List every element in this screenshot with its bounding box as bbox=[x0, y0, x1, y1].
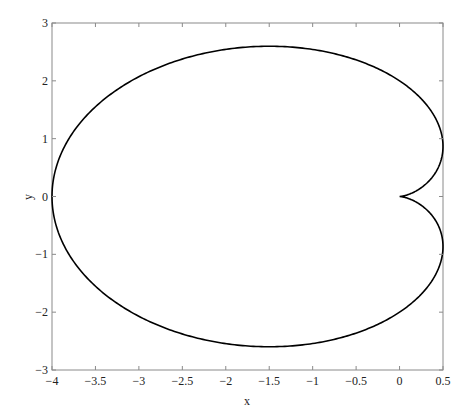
y-tick-label: −3 bbox=[35, 363, 48, 377]
x-tick-label: 0 bbox=[397, 374, 403, 388]
y-tick-label: 0 bbox=[42, 190, 48, 204]
x-tick-label: −2.5 bbox=[171, 374, 193, 388]
chart-canvas: −4−3.5−3−2.5−2−1.5−1−0.500.5−3−2−10123 x… bbox=[0, 0, 474, 410]
x-axis-label: x bbox=[244, 394, 250, 408]
x-tick-label: −2 bbox=[219, 374, 232, 388]
y-tick-label: −1 bbox=[35, 247, 48, 261]
y-tick-label: −2 bbox=[35, 305, 48, 319]
plot-area bbox=[52, 23, 443, 370]
x-tick-label: −0.5 bbox=[345, 374, 367, 388]
x-tick-label: 0.5 bbox=[436, 374, 451, 388]
y-tick-label: 3 bbox=[42, 16, 48, 30]
x-tick-label: −1.5 bbox=[258, 374, 280, 388]
x-tick-label: −3.5 bbox=[85, 374, 107, 388]
x-tick-label: −3 bbox=[132, 374, 145, 388]
x-tick-label: −1 bbox=[306, 374, 319, 388]
y-tick-label: 1 bbox=[42, 132, 48, 146]
y-axis-label: y bbox=[21, 194, 35, 200]
axes-frame bbox=[52, 23, 443, 370]
y-tick-label: 2 bbox=[42, 74, 48, 88]
